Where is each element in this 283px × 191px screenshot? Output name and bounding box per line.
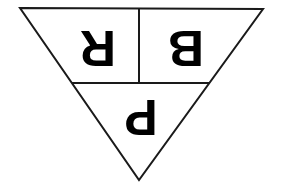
formula-triangle-diagram: R B P	[0, 0, 283, 191]
label-b: B	[168, 20, 204, 76]
label-p: P	[124, 89, 157, 145]
label-r: R	[80, 20, 116, 76]
